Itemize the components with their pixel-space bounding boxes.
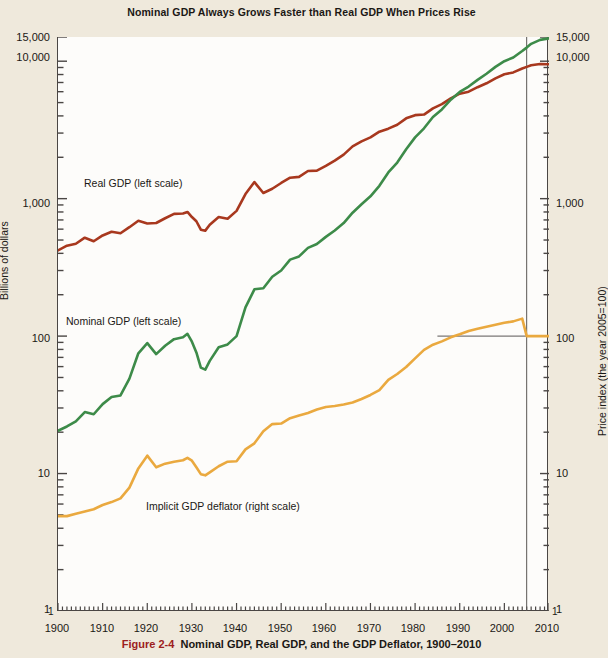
xtick-1990: 1990 [435,622,481,634]
right-ytick-15000: 15,000 [556,31,590,43]
figure-number: Figure 2-4 [122,638,175,650]
series-line-real [58,64,549,250]
series-label-real-gdp: Real GDP (left scale) [84,177,182,189]
xtick-2000: 2000 [479,622,525,634]
xtick-2010: 2010 [524,622,570,634]
xtick-1960: 1960 [301,622,347,634]
left-ytick-1000: 1,000 [22,197,50,209]
series-line-nominal [58,38,549,430]
series-label-deflator: Implicit GDP deflator (right scale) [146,500,300,512]
left-ytick-15000: 15,000 [16,31,50,43]
right-ytick-100: 100 [556,332,574,344]
x-axis-right-end-label: 1 [552,606,558,617]
data-series-group [58,38,549,516]
xtick-1980: 1980 [390,622,436,634]
left-axis-title: Billions of dollars [0,221,10,300]
right-ytick-1000: 1,000 [556,197,584,209]
xtick-1930: 1930 [168,622,214,634]
xtick-1920: 1920 [123,622,169,634]
left-ytick-100: 100 [32,332,50,344]
left-ytick-10000: 10,000 [16,51,50,63]
xtick-1950: 1950 [257,622,303,634]
figure-caption-text: Nominal GDP, Real GDP, and the GDP Defla… [180,638,481,650]
right-axis-title: Price index (the year 2005=100) [596,286,608,436]
left-ytick-10: 10 [38,467,50,479]
xtick-1900: 1900 [34,622,80,634]
figure-caption: Figure 2-4 Nominal GDP, Real GDP, and th… [0,638,603,650]
xtick-1910: 1910 [79,622,125,634]
right-axis-ticks [540,37,549,611]
x-axis-ticks [58,603,549,611]
right-ytick-10000: 10,000 [556,51,590,63]
x-axis-left-end-label: 1 [48,606,54,617]
xtick-1940: 1940 [212,622,258,634]
chart-title: Nominal GDP Always Grows Faster than Rea… [0,6,603,18]
xtick-1970: 1970 [346,622,392,634]
series-line-implicit [58,319,549,517]
series-label-nominal-gdp: Nominal GDP (left scale) [66,315,181,327]
right-ytick-10: 10 [556,467,568,479]
